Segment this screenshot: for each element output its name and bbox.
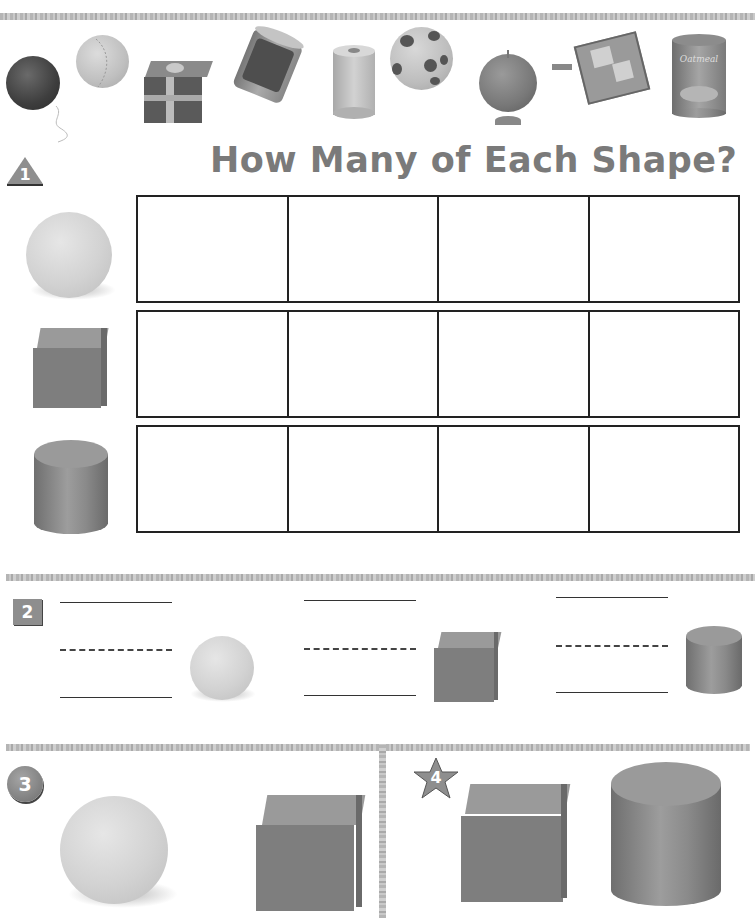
page-title: How Many of Each Shape?	[210, 140, 737, 180]
oatmeal-canister-image: Oatmeal	[672, 34, 726, 120]
sphere-shape-large	[58, 796, 178, 912]
section-2-badge: 2	[13, 599, 42, 625]
answer-box[interactable]	[439, 427, 590, 531]
globe-image	[477, 50, 539, 126]
section-3-4-border-band	[6, 744, 750, 751]
cylinder-shape-large	[611, 762, 721, 908]
answer-box[interactable]	[138, 312, 289, 416]
paper-towel-roll-image	[333, 45, 375, 121]
answer-box[interactable]	[289, 197, 440, 301]
cylinder-row-shape	[34, 440, 108, 536]
cylinder-count-row	[136, 425, 740, 533]
answer-box[interactable]	[138, 427, 289, 531]
food-can-image	[227, 21, 313, 112]
section-4-badge: 4	[413, 757, 459, 799]
answer-box[interactable]	[289, 427, 440, 531]
answer-box[interactable]	[590, 427, 739, 531]
section-3-badge: 3	[7, 766, 43, 802]
section-1-badge: 1	[6, 156, 44, 186]
answer-box[interactable]	[439, 312, 590, 416]
section-divider-band	[379, 744, 386, 918]
jack-in-the-box-image	[552, 32, 648, 100]
sphere-row-shape	[24, 210, 119, 305]
cube-shape-large	[256, 795, 362, 911]
ball-with-string-image	[6, 56, 62, 116]
answer-box[interactable]	[138, 197, 289, 301]
cube-shape	[434, 632, 498, 702]
answer-box[interactable]	[590, 197, 739, 301]
section-4-number: 4	[426, 767, 446, 787]
sphere-count-row	[136, 195, 740, 303]
cube-row-shape	[33, 328, 107, 408]
section-2-border-band	[6, 574, 755, 581]
sphere-shape	[186, 636, 258, 706]
cube-count-row	[136, 310, 740, 418]
section-1-number: 1	[18, 164, 32, 184]
spotted-ball-image	[390, 27, 454, 91]
cylinder-shape	[686, 626, 742, 696]
answer-box[interactable]	[590, 312, 739, 416]
gift-box-image	[144, 61, 210, 123]
answer-box[interactable]	[289, 312, 440, 416]
cube-shape-large	[461, 784, 567, 902]
oatmeal-label: Oatmeal	[676, 54, 722, 64]
baseball-image	[76, 35, 130, 89]
top-border-band	[0, 13, 755, 20]
answer-box[interactable]	[439, 197, 590, 301]
